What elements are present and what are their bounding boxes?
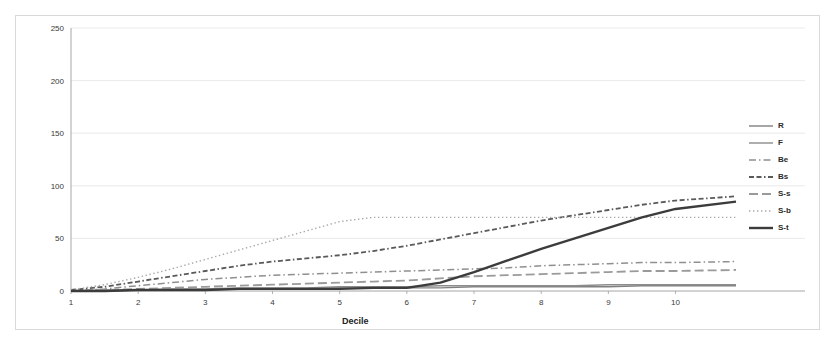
legend-item-f[interactable]: F <box>748 134 818 151</box>
x-axis-title: Decile <box>342 316 369 326</box>
x-tick-label: 10 <box>671 298 680 307</box>
legend-label: R <box>778 121 784 130</box>
legend-item-s-b[interactable]: S-b <box>748 202 818 219</box>
chart-plot-area <box>0 0 832 344</box>
legend-label: S-t <box>778 223 789 232</box>
x-tick-label: 1 <box>69 298 73 307</box>
legend-label: Be <box>778 155 788 164</box>
y-tick-label: 0 <box>38 287 64 296</box>
legend-swatch-s-b <box>748 206 774 216</box>
legend-item-s-t[interactable]: S-t <box>748 219 818 236</box>
y-tick-label: 200 <box>38 76 64 85</box>
chart-figure: 050100150200250 12345678910 Cumulative o… <box>0 0 832 344</box>
legend-swatch-f <box>748 138 774 148</box>
x-tick-label: 4 <box>270 298 274 307</box>
x-tick-label: 9 <box>606 298 610 307</box>
series-line-s-b <box>71 217 736 290</box>
chart-legend: RFBeBsS-sS-bS-t <box>748 117 818 236</box>
legend-item-be[interactable]: Be <box>748 151 818 168</box>
x-tick-label: 3 <box>203 298 207 307</box>
x-tick-label: 2 <box>136 298 140 307</box>
legend-swatch-r <box>748 121 774 131</box>
legend-label: S-s <box>778 189 790 198</box>
legend-swatch-s-s <box>748 189 774 199</box>
legend-item-s-s[interactable]: S-s <box>748 185 818 202</box>
legend-item-bs[interactable]: Bs <box>748 168 818 185</box>
x-tick-label: 6 <box>405 298 409 307</box>
series-line-bs <box>71 196 736 290</box>
legend-item-r[interactable]: R <box>748 117 818 134</box>
x-tick-label: 5 <box>337 298 341 307</box>
y-tick-label: 250 <box>38 24 64 33</box>
y-tick-label: 100 <box>38 181 64 190</box>
y-tick-label: 150 <box>38 129 64 138</box>
legend-label: S-b <box>778 206 791 215</box>
y-tick-label: 50 <box>38 234 64 243</box>
legend-swatch-be <box>748 155 774 165</box>
x-tick-label: 8 <box>539 298 543 307</box>
legend-swatch-bs <box>748 172 774 182</box>
legend-label: F <box>778 138 783 147</box>
legend-swatch-s-t <box>748 223 774 233</box>
legend-label: Bs <box>778 172 788 181</box>
x-tick-label: 7 <box>472 298 476 307</box>
